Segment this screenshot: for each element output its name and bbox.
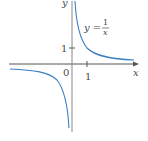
hyperbola-graph: y x 0 1 1 y = 1 x <box>0 0 148 141</box>
y-tick-label-1: 1 <box>61 43 67 54</box>
equation-lhs: y = <box>83 22 101 33</box>
equation-numerator: 1 <box>103 18 108 27</box>
equation-denominator: x <box>103 28 108 37</box>
x-axis-label: x <box>133 67 139 78</box>
x-axis-arrow-icon <box>133 62 139 67</box>
origin-label: 0 <box>63 67 69 78</box>
y-axis-label: y <box>61 0 68 8</box>
curve-negative-branch <box>10 69 69 128</box>
x-tick-label-1: 1 <box>85 71 91 82</box>
